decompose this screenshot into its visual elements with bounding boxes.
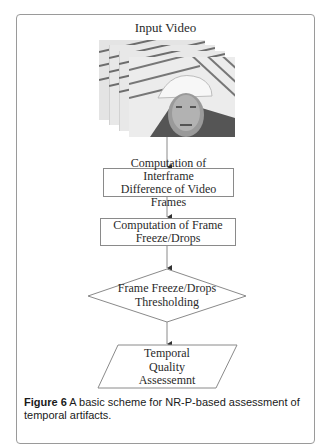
figure-caption-label: Figure 6 (24, 396, 67, 408)
step-threshold-line-1: Frame Freeze/Drops (100, 282, 234, 296)
step-threshold-line-2: Thresholding (100, 296, 234, 310)
step-assessment-line-2: Quality (110, 361, 224, 375)
step-thresholding: Frame Freeze/Drops Thresholding (100, 282, 234, 309)
step-assessment-line-3: Assessemnt (110, 374, 224, 388)
step-assessment-line-1: Temporal (110, 347, 224, 361)
step-interframe-difference: Computation of Interframe Difference of … (103, 168, 234, 197)
step-frame-freeze-drops: Computation of Frame Freeze/Drops (100, 218, 236, 246)
step-interframe-line-2: Difference of Video Frames (104, 183, 233, 209)
step-temporal-quality-assessment: Temporal Quality Assessemnt (110, 347, 224, 388)
step-interframe-line-1: Computation of Interframe (104, 157, 233, 183)
step-freeze-line-2: Freeze/Drops (101, 232, 235, 245)
figure-caption: Figure 6 A basic scheme for NR-P-based a… (24, 396, 314, 422)
